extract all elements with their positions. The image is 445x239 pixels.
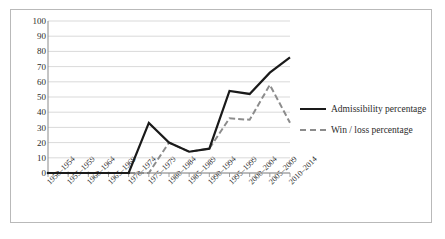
y-tick-label: 50 [20, 92, 46, 102]
legend-label: Admissibility percentage [331, 104, 426, 114]
legend-item-win-loss: Win / loss percentage [300, 121, 435, 138]
y-tick-label: 60 [20, 77, 46, 87]
dashed-line-swatch-icon [300, 125, 326, 135]
y-tick-label: 0 [20, 168, 46, 178]
solid-line-swatch-icon [300, 104, 326, 114]
chart-legend: Admissibility percentage Win / loss perc… [300, 100, 435, 142]
y-tick-label: 80 [20, 46, 46, 56]
legend-label: Win / loss percentage [331, 125, 413, 135]
y-tick-label: 20 [20, 138, 46, 148]
y-tick-label: 70 [20, 62, 46, 72]
y-tick-label: 40 [20, 107, 46, 117]
legend-item-admissibility: Admissibility percentage [300, 100, 435, 117]
y-tick-label: 100 [20, 16, 46, 26]
y-tick-label: 30 [20, 123, 46, 133]
chart-figure: 100 90 80 70 60 50 40 30 20 10 0 1950–19… [0, 0, 445, 239]
y-tick-label: 90 [20, 31, 46, 41]
y-tick-label: 10 [20, 153, 46, 163]
